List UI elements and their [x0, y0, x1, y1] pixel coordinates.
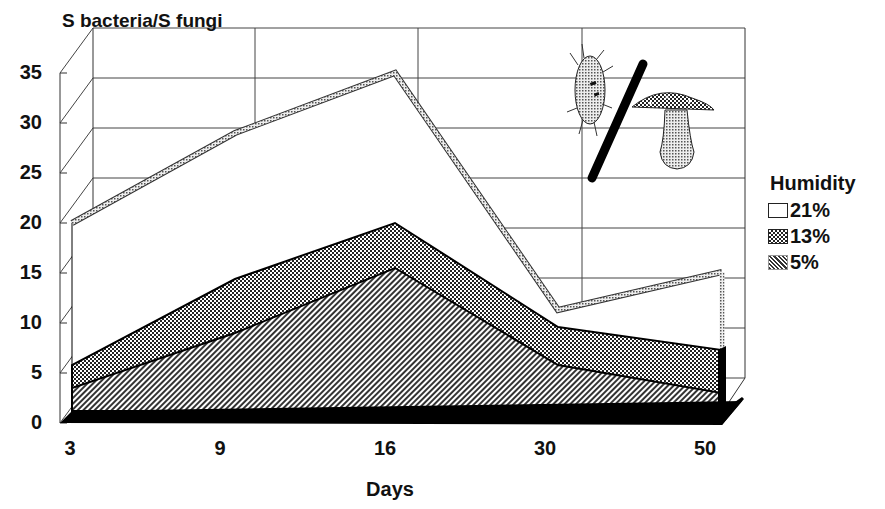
x-tick-label: 9	[190, 437, 250, 460]
legend-item-13: 13%	[768, 223, 856, 249]
legend-swatch-diagonal	[768, 255, 788, 270]
y-tick-label: 5	[2, 361, 42, 384]
y-tick-label: 10	[2, 311, 42, 334]
y-tick-label: 0	[2, 411, 42, 434]
y-tick-label: 25	[2, 161, 42, 184]
legend-item-21: 21%	[768, 197, 856, 223]
x-tick-label: 50	[675, 437, 735, 460]
y-tick-label: 30	[2, 111, 42, 134]
bacteria-fungi-illustration	[567, 44, 714, 178]
legend: Humidity 21% 13% 5%	[768, 172, 856, 275]
mushroom-icon	[632, 93, 714, 169]
x-tick-label: 16	[355, 437, 415, 460]
plot-areas	[60, 73, 744, 425]
legend-label: 13%	[790, 225, 830, 248]
x-tick-label: 3	[40, 437, 100, 460]
legend-swatch-checker	[768, 229, 788, 244]
x-axis-label: Days	[330, 478, 450, 501]
legend-label: 5%	[790, 251, 819, 274]
chart-title: S bacteria/S fungi	[62, 10, 222, 32]
y-tick-label: 35	[2, 61, 42, 84]
chart-canvas	[0, 0, 885, 509]
legend-label: 21%	[790, 199, 830, 222]
legend-title: Humidity	[770, 172, 856, 195]
y-tick-label: 15	[2, 261, 42, 284]
y-tick-label: 20	[2, 211, 42, 234]
legend-item-5: 5%	[768, 249, 856, 275]
legend-swatch-white	[768, 203, 788, 218]
bacterium-icon	[567, 44, 613, 136]
x-tick-label: 30	[515, 437, 575, 460]
